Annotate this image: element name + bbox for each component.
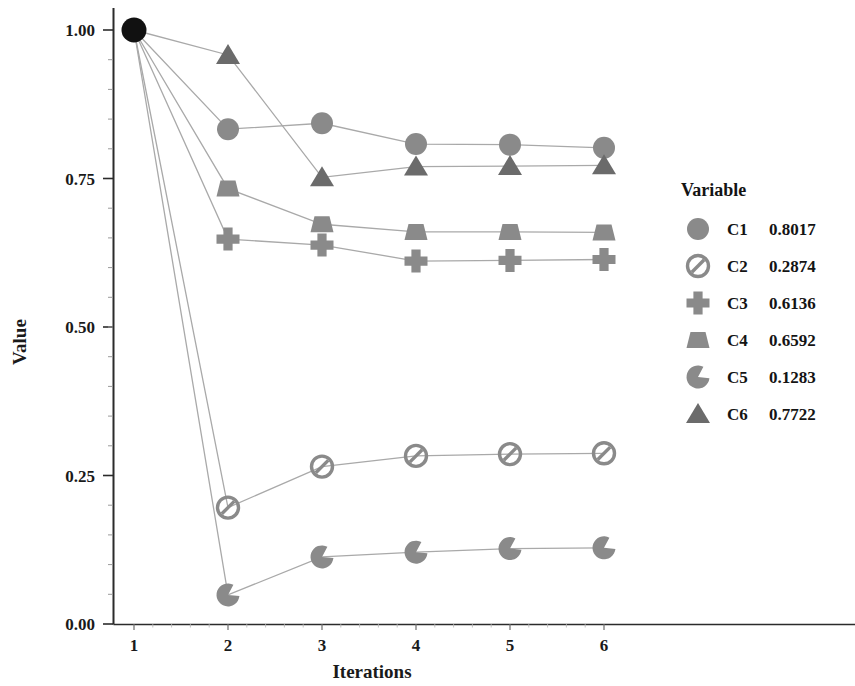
data-point-triangle[interactable] — [216, 44, 240, 64]
data-point-cross[interactable] — [217, 228, 240, 251]
data-point-circle-slash[interactable] — [218, 497, 239, 518]
data-point-triangle[interactable] — [498, 155, 522, 175]
chart-root: 0.000.250.500.751.00 123456 Iterations V… — [0, 0, 855, 686]
data-point-cross[interactable] — [593, 248, 616, 271]
legend-marker-pacman-icon — [687, 366, 710, 389]
series-C5[interactable] — [134, 30, 615, 606]
legend-item-C5[interactable]: C50.1283 — [687, 366, 816, 389]
y-tick-label: 1.00 — [65, 21, 95, 40]
x-tick-label: 1 — [130, 636, 139, 655]
y-tick-label: 0.50 — [65, 318, 95, 337]
y-axis-minor-ticks — [108, 60, 113, 595]
x-tick-label: 4 — [412, 636, 421, 655]
line-chart: 0.000.250.500.751.00 123456 Iterations V… — [0, 0, 855, 686]
legend-item-value: 0.8017 — [769, 220, 816, 239]
x-axis-title: Iterations — [332, 661, 411, 682]
legend-item-C6[interactable]: C60.7722 — [686, 403, 816, 424]
legend-item-value: 0.1283 — [769, 368, 816, 387]
legend-item-C4[interactable]: C40.6592 — [687, 331, 816, 350]
legend-item-value: 0.6592 — [769, 331, 816, 350]
series-line — [134, 30, 604, 508]
legend-item-label: C2 — [727, 257, 748, 276]
x-tick-label: 3 — [318, 636, 327, 655]
data-point-pacman[interactable] — [217, 583, 240, 606]
data-point-trapezoid[interactable] — [311, 216, 334, 232]
series-C6[interactable] — [134, 30, 616, 186]
legend-marker-triangle-icon — [686, 403, 710, 423]
data-point-triangle[interactable] — [404, 156, 428, 176]
data-point-trapezoid[interactable] — [499, 224, 522, 240]
data-point-pacman[interactable] — [593, 536, 616, 559]
legend-item-C2[interactable]: C20.2874 — [688, 256, 817, 277]
data-point-circle[interactable] — [499, 134, 521, 156]
series-layer — [134, 30, 616, 606]
y-axis-tick-labels: 0.000.250.500.751.00 — [65, 21, 95, 634]
y-tick-label: 0.75 — [65, 170, 95, 189]
start-point-dot[interactable] — [122, 18, 147, 43]
series-C2[interactable] — [134, 30, 615, 518]
data-point-trapezoid[interactable] — [217, 181, 240, 197]
data-point-trapezoid[interactable] — [593, 224, 616, 240]
x-tick-label: 6 — [600, 636, 609, 655]
legend-marker-cross-icon — [687, 292, 710, 315]
y-axis-title: Value — [9, 319, 30, 365]
axis-lines — [114, 8, 855, 625]
x-tick-label: 5 — [506, 636, 515, 655]
data-point-circle[interactable] — [311, 112, 333, 134]
series-line — [134, 30, 604, 148]
legend-item-C1[interactable]: C10.8017 — [687, 218, 816, 240]
legend-marker-circle-slash-icon — [688, 256, 709, 277]
x-axis-tick-labels: 123456 — [130, 636, 609, 655]
legend: Variable C10.8017C20.2874C30.6136C40.659… — [681, 180, 816, 424]
legend-item-label: C6 — [727, 405, 748, 424]
legend-item-C3[interactable]: C30.6136 — [687, 292, 816, 315]
y-tick-label: 0.00 — [65, 615, 95, 634]
legend-item-label: C3 — [727, 294, 748, 313]
data-point-circle[interactable] — [405, 133, 427, 155]
legend-marker-circle-icon — [687, 218, 709, 240]
legend-item-value: 0.7722 — [769, 405, 816, 424]
series-line — [134, 30, 604, 595]
data-point-cross[interactable] — [311, 234, 334, 257]
data-point-circle[interactable] — [217, 118, 239, 140]
legend-item-label: C5 — [727, 368, 748, 387]
series-line — [134, 30, 604, 232]
data-point-cross[interactable] — [405, 250, 428, 273]
legend-item-label: C4 — [727, 331, 748, 350]
data-point-cross[interactable] — [499, 249, 522, 272]
legend-title: Variable — [681, 180, 746, 200]
legend-item-value: 0.2874 — [769, 257, 816, 276]
data-point-triangle[interactable] — [592, 154, 616, 174]
x-tick-label: 2 — [224, 636, 233, 655]
start-point-marker — [122, 18, 147, 43]
y-tick-label: 0.25 — [65, 467, 95, 486]
legend-item-label: C1 — [727, 220, 748, 239]
data-point-circle-slash[interactable] — [312, 456, 333, 477]
legend-marker-trapezoid-icon — [687, 332, 710, 348]
legend-item-value: 0.6136 — [769, 294, 816, 313]
data-point-trapezoid[interactable] — [405, 224, 428, 240]
